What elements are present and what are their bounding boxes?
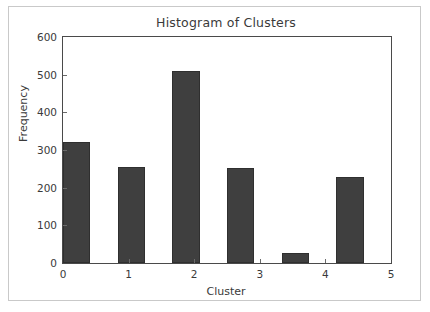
- bar-cluster-5: [336, 177, 363, 263]
- figure: Histogram of Clusters 010020030040050060…: [0, 0, 430, 312]
- x-tick-mark: [325, 259, 326, 263]
- y-tick-label: 500: [37, 69, 57, 81]
- y-tick-mark: [63, 150, 67, 151]
- x-tick-label: 0: [60, 268, 67, 280]
- bar-cluster-3: [227, 168, 254, 263]
- x-tick-mark: [129, 259, 130, 263]
- y-tick-mark: [63, 75, 67, 76]
- x-tick-label: 5: [388, 268, 395, 280]
- x-tick-mark: [260, 259, 261, 263]
- x-tick-label: 2: [191, 268, 198, 280]
- y-tick-label: 200: [37, 182, 57, 194]
- bar-cluster-0: [63, 142, 90, 263]
- y-tick-label: 600: [37, 31, 57, 43]
- bars-layer: [63, 37, 391, 263]
- plot-area: 0100200300400500600012345: [62, 36, 392, 264]
- y-tick-mark: [63, 188, 67, 189]
- bar-cluster-4: [282, 253, 309, 263]
- bar-cluster-2: [172, 71, 199, 263]
- x-tick-label: 1: [125, 268, 132, 280]
- x-axis-label: Cluster: [62, 285, 390, 298]
- chart-title: Histogram of Clusters: [62, 15, 390, 30]
- x-tick-label: 3: [256, 268, 263, 280]
- y-tick-mark: [63, 112, 67, 113]
- x-tick-label: 4: [322, 268, 329, 280]
- y-tick-label: 0: [50, 257, 57, 269]
- y-tick-label: 400: [37, 106, 57, 118]
- y-axis-label: Frequency: [17, 69, 30, 159]
- y-tick-mark: [63, 225, 67, 226]
- y-tick-label: 300: [37, 144, 57, 156]
- x-tick-mark: [194, 259, 195, 263]
- y-tick-label: 100: [37, 219, 57, 231]
- bar-cluster-1: [118, 167, 145, 263]
